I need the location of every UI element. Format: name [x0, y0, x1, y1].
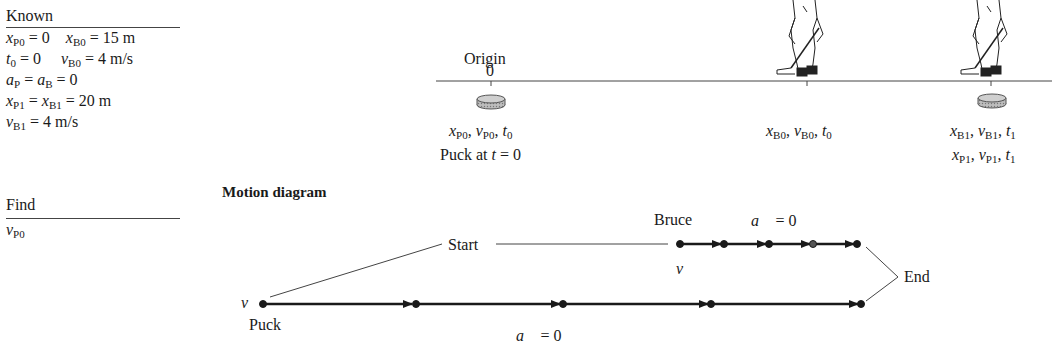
puck-label: Puck — [249, 316, 281, 334]
puck-dot — [708, 301, 715, 308]
bruce-label: Bruce — [654, 211, 692, 229]
bruce-start-label: xB0, vB0, t0 — [766, 122, 832, 140]
hockey-puck-icon — [477, 95, 505, 109]
puck-accel-label: a⃗ = 0 — [516, 327, 561, 345]
bruce-motion-row — [677, 241, 861, 248]
puck-end-label: xP1, vP1, t1 — [952, 146, 1015, 164]
bruce-dot — [854, 241, 861, 248]
bruce-accel-label: a⃗ = 0 — [751, 212, 796, 230]
bruce-end-label: xB1, vB1, t1 — [950, 122, 1016, 140]
origin-tick-label: 0 — [486, 62, 494, 80]
bruce-dot — [766, 241, 773, 248]
hockey-player-icon — [961, 0, 1007, 76]
diagram-canvas — [0, 0, 1060, 346]
hockey-puck-icon — [978, 94, 1006, 108]
bruce-dot — [677, 241, 684, 248]
puck-dot — [858, 301, 865, 308]
origin-label: Origin — [464, 50, 506, 68]
puck-velocity-label: v⃗ — [241, 294, 261, 312]
puck-caption: Puck at t = 0 — [440, 146, 521, 164]
bruce-dot — [810, 241, 817, 248]
bruce-velocity-label: v⃗ — [676, 260, 696, 278]
end-connectors — [866, 247, 898, 301]
puck-start-label: xP0, vP0, t0 — [449, 122, 512, 140]
motion-diagram-title: Motion diagram — [222, 183, 327, 201]
start-label: Start — [448, 236, 478, 254]
end-label: End — [904, 268, 930, 286]
hockey-player-icon — [777, 0, 823, 76]
puck-dot — [260, 301, 267, 308]
position-axis — [436, 81, 1052, 86]
puck-dot — [560, 301, 567, 308]
puck-motion-row — [260, 301, 865, 308]
puck-dot — [413, 301, 420, 308]
bruce-dot — [721, 241, 728, 248]
